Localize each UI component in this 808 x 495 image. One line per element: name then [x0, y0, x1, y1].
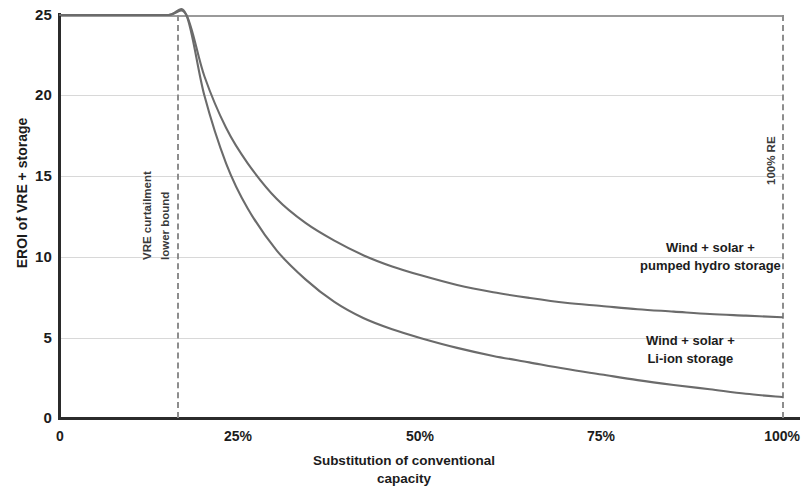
x-axis-title-line-1: Substitution of conventional	[0, 452, 808, 470]
series-label-pumped-hydro-line-1: Wind + solar +	[640, 239, 781, 257]
hundred-percent-re-label: 100% RE	[764, 136, 778, 185]
x-tick-100: 100%	[764, 428, 800, 444]
y-tick-5-label: 5	[6, 329, 52, 346]
vre-curtailment-label-2: lower bound	[158, 192, 172, 260]
x-tick-50: 50%	[406, 428, 434, 444]
y-axis-line	[58, 13, 61, 420]
vre-curtailment-label-line-2: lower bound	[159, 192, 171, 260]
series-label-liion-line-1: Wind + solar +	[646, 332, 735, 350]
series-label-liion-line-2: Li-ion storage	[646, 350, 735, 368]
series-label-pumped-hydro: Wind + solar + pumped hydro storage	[640, 239, 781, 275]
x-axis-title: Substitution of conventional capacity	[0, 452, 808, 488]
x-tick-75: 75%	[587, 428, 615, 444]
series-label-pumped-hydro-line-2: pumped hydro storage	[640, 257, 781, 275]
x-axis-line	[58, 417, 800, 420]
y-tick-25: 25	[0, 6, 52, 26]
y-tick-0: 0	[0, 409, 52, 429]
vre-curtailment-line	[177, 15, 179, 418]
y-tick-0-label: 0	[6, 409, 52, 426]
y-tick-5: 5	[0, 329, 52, 349]
gridline-20	[60, 95, 782, 96]
x-axis-title-line-2: capacity	[0, 470, 808, 488]
x-tick-0: 0	[56, 428, 64, 444]
y-axis-title: EROI of VRE + storage	[14, 83, 30, 303]
hundred-percent-re-label-text: 100% RE	[765, 136, 777, 185]
hundred-percent-re-line	[782, 15, 784, 418]
vre-curtailment-label-line-1: VRE curtailment	[141, 171, 153, 260]
y-tick-25-label: 25	[6, 6, 52, 23]
vre-curtailment-label: VRE curtailment	[140, 171, 154, 260]
gridline-25	[60, 15, 782, 17]
gridline-15	[60, 176, 782, 177]
chart-figure: 25 20 15 10 5 0 EROI of VRE + storage 0 …	[0, 0, 808, 495]
series-label-liion: Wind + solar + Li-ion storage	[646, 332, 735, 368]
x-tick-25: 25%	[224, 428, 252, 444]
